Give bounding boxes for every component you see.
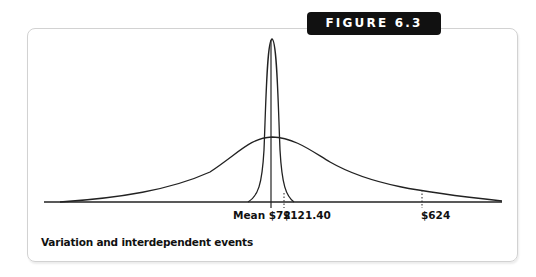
figure-caption: Variation and interdependent events bbox=[41, 236, 253, 248]
label-624: $624 bbox=[421, 209, 450, 221]
label-121-40: $121.40 bbox=[283, 209, 331, 221]
